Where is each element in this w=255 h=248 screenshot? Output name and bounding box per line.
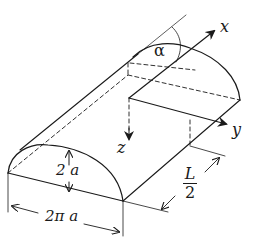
left-ridge (20, 54, 138, 150)
y-axis-line (129, 98, 226, 124)
length-arrow-bottom (162, 196, 175, 209)
hidden-back-base (128, 75, 240, 100)
width-arrow-left (12, 206, 38, 213)
diagram-canvas: x y z α 2 a 2π a L 2 (0, 0, 255, 248)
width-label: 2π a (45, 209, 78, 224)
hidden-left-base (8, 75, 128, 173)
half-cylinder-diagram (0, 0, 255, 248)
length-denominator: 2 (183, 185, 197, 201)
x-axis-label: x (220, 19, 229, 35)
length-ext-bottom (123, 201, 168, 212)
width-arrow-right (84, 224, 119, 232)
angle-label: α (154, 43, 165, 59)
y-axis-label: y (232, 122, 241, 138)
length-numerator: L (183, 166, 197, 182)
right-base-edge (123, 100, 240, 201)
height-label: 2 a (56, 163, 79, 178)
x-axis-line (129, 31, 214, 98)
length-fraction: L 2 (183, 166, 197, 201)
length-arrow-top (205, 158, 219, 172)
z-axis-label: z (117, 140, 125, 156)
hidden-mid-line (130, 63, 195, 70)
length-ext-top (190, 146, 225, 156)
